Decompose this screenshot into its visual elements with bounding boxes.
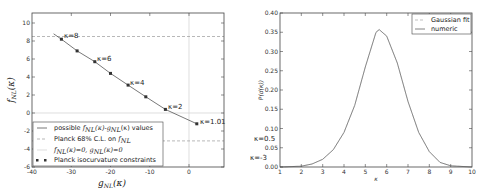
left-x-ticks: -40 -30 -20 -10 0: [27, 168, 191, 175]
svg-text:0: 0: [187, 168, 191, 175]
kappa-8-label: κ=8: [64, 32, 78, 40]
numeric-curve: [280, 30, 472, 167]
svg-text:-4: -4: [24, 145, 30, 152]
left-plot: κ=8 κ=6 κ=4 κ=2 κ=1.01 -6 -4 -2: [6, 13, 226, 189]
svg-text:10: 10: [468, 168, 476, 175]
svg-text:-20: -20: [106, 168, 116, 175]
svg-text:8: 8: [26, 37, 30, 44]
right-x-ticks: 1 2 3 4 5 6 7 8 9 10: [278, 168, 476, 175]
kappa-6-label: κ=6: [97, 55, 112, 63]
right-y-axis-label: P(d(κ)): [257, 80, 264, 100]
svg-text:0.30: 0.30: [265, 48, 279, 55]
svg-text:2: 2: [299, 168, 303, 175]
legend-item-planck-iso: Planck isocurvature constraints: [54, 156, 157, 164]
svg-text:10: 10: [22, 19, 30, 26]
svg-text:1: 1: [278, 168, 282, 175]
svg-text:0.40: 0.40: [265, 9, 279, 16]
left-x-axis-label: gNL(κ): [98, 178, 126, 189]
left-legend: possible fNL(κ)-gNL(κ) values Planck 68%…: [33, 122, 163, 166]
svg-text:9: 9: [449, 168, 453, 175]
legend-item-gaussian-fit: Gaussian fit: [431, 16, 470, 24]
right-x-axis-label: κ: [374, 175, 378, 182]
svg-text:0.10: 0.10: [265, 125, 279, 132]
right-legend: Gaussian fit numeric: [412, 14, 471, 34]
kappa-1-01-label: κ=1.01: [200, 118, 226, 126]
svg-text:7: 7: [406, 168, 410, 175]
side-label-kappa-minus-3: κ=-3: [250, 154, 267, 162]
right-y-ticks: 0.00 0.05 0.10 0.15 0.20 0.25 0.30 0.35 …: [265, 9, 279, 170]
svg-text:8: 8: [427, 168, 431, 175]
svg-text:4: 4: [26, 73, 30, 80]
right-plot: 0.00 0.05 0.10 0.15 0.20 0.25 0.30 0.35 …: [250, 9, 476, 182]
kappa-4-label: κ=4: [130, 79, 145, 87]
svg-text:5: 5: [363, 168, 367, 175]
right-plot-frame: [280, 13, 472, 167]
svg-text:6: 6: [385, 168, 389, 175]
side-label-kappa-0-5: κ=0.5: [254, 135, 275, 143]
legend-item-numeric: numeric: [431, 25, 458, 33]
svg-text:0.20: 0.20: [265, 86, 279, 93]
figure: κ=8 κ=6 κ=4 κ=2 κ=1.01 -6 -4 -2: [0, 0, 482, 193]
gaussian-fit-curve: [280, 30, 472, 167]
svg-text:-30: -30: [66, 168, 76, 175]
svg-text:-10: -10: [145, 168, 155, 175]
svg-text:0.00: 0.00: [265, 163, 279, 170]
svg-text:0.15: 0.15: [265, 105, 279, 112]
svg-text:0.35: 0.35: [265, 28, 279, 35]
kappa-2-label: κ=2: [168, 103, 182, 111]
svg-text:-2: -2: [24, 127, 30, 134]
svg-text:0.25: 0.25: [265, 67, 279, 74]
svg-text:4: 4: [342, 168, 346, 175]
svg-text:0: 0: [26, 109, 30, 116]
svg-text:2: 2: [26, 91, 30, 98]
svg-text:6: 6: [26, 55, 30, 62]
left-y-axis-label: fNL(κ): [6, 77, 17, 104]
svg-text:-40: -40: [27, 168, 37, 175]
svg-text:0.05: 0.05: [265, 144, 279, 151]
left-y-ticks: -6 -4 -2 0 2 4 6 8 10: [22, 19, 30, 170]
svg-text:3: 3: [321, 168, 325, 175]
